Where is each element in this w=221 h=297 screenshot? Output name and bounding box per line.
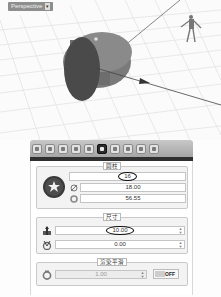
circumference-input[interactable]: 56.55 [80,194,186,203]
tool-tabs [30,140,193,157]
properties-panel: 圆柱 16 18.00 56.55 [30,140,193,295]
tool-tab-1-icon[interactable] [32,144,42,154]
viewport-scene [0,0,221,140]
angle-value: 0.00 [114,241,126,247]
segments-value: 16 [118,172,137,181]
diameter-icon [70,184,78,192]
size-group: 尺寸 10.00 ▲▼ 0.00 ▲▼ [36,217,188,254]
cylinder-group: 圆柱 16 18.00 56.55 [36,166,188,209]
tool-tab-6-icon[interactable] [97,144,107,154]
size-group-title: 尺寸 [103,213,121,221]
toggle-knob [155,271,165,277]
angle-input[interactable]: 0.00 ▲▼ [55,240,185,249]
spin-down-icon[interactable]: ▼ [179,230,183,235]
smooth-group: 渲染平滑 1.00 ▲▼ OFF [36,262,188,286]
tool-tab-3-icon[interactable] [58,144,68,154]
view-dropdown[interactable]: Perspective ▾ [8,2,53,11]
diameter-input[interactable]: 18.00 [80,183,186,192]
height-icon [42,226,52,236]
smooth-icon [42,270,52,280]
tool-tab-5-icon[interactable] [84,144,94,154]
cylinder-shape-icon [42,175,66,199]
segments-input[interactable]: 16 [69,172,186,181]
spin-down-icon[interactable]: ▼ [179,244,183,249]
angle-spinner[interactable]: ▲▼ [178,241,183,248]
view-label: Perspective [11,3,42,9]
tool-tab-9-icon[interactable] [136,144,146,154]
circumference-icon [70,195,78,203]
3d-viewport[interactable]: Perspective ▾ [0,0,221,140]
smooth-group-title: 渲染平滑 [97,258,127,266]
tool-tab-7-icon[interactable] [110,144,120,154]
app-root: Perspective ▾ 圆柱 [0,0,221,297]
panel-body: 圆柱 16 18.00 56.55 [30,161,193,295]
tool-tab-2-icon[interactable] [45,144,55,154]
cylinder-group-title: 圆柱 [103,162,121,170]
smooth-spinner[interactable]: ▲▼ [140,271,145,278]
tool-tab-10-icon[interactable] [149,144,159,154]
toggle-label: OFF [165,270,175,278]
height-input[interactable]: 10.00 ▲▼ [55,226,185,235]
smooth-input[interactable]: 1.00 ▲▼ [55,270,147,279]
angle-icon [42,240,52,250]
tool-tab-4-icon[interactable] [71,144,81,154]
height-spinner[interactable]: ▲▼ [178,227,183,234]
spin-down-icon[interactable]: ▼ [141,274,145,279]
smooth-value: 1.00 [95,271,107,277]
tool-tab-8-icon[interactable] [123,144,133,154]
height-value: 10.00 [106,226,133,235]
smooth-toggle[interactable]: OFF [153,269,179,279]
chevron-down-icon: ▾ [45,3,50,10]
